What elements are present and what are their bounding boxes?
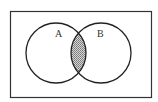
- venn-diagram: A B: [0, 0, 158, 102]
- set-b-label: B: [97, 28, 104, 39]
- set-a-label: A: [55, 28, 63, 39]
